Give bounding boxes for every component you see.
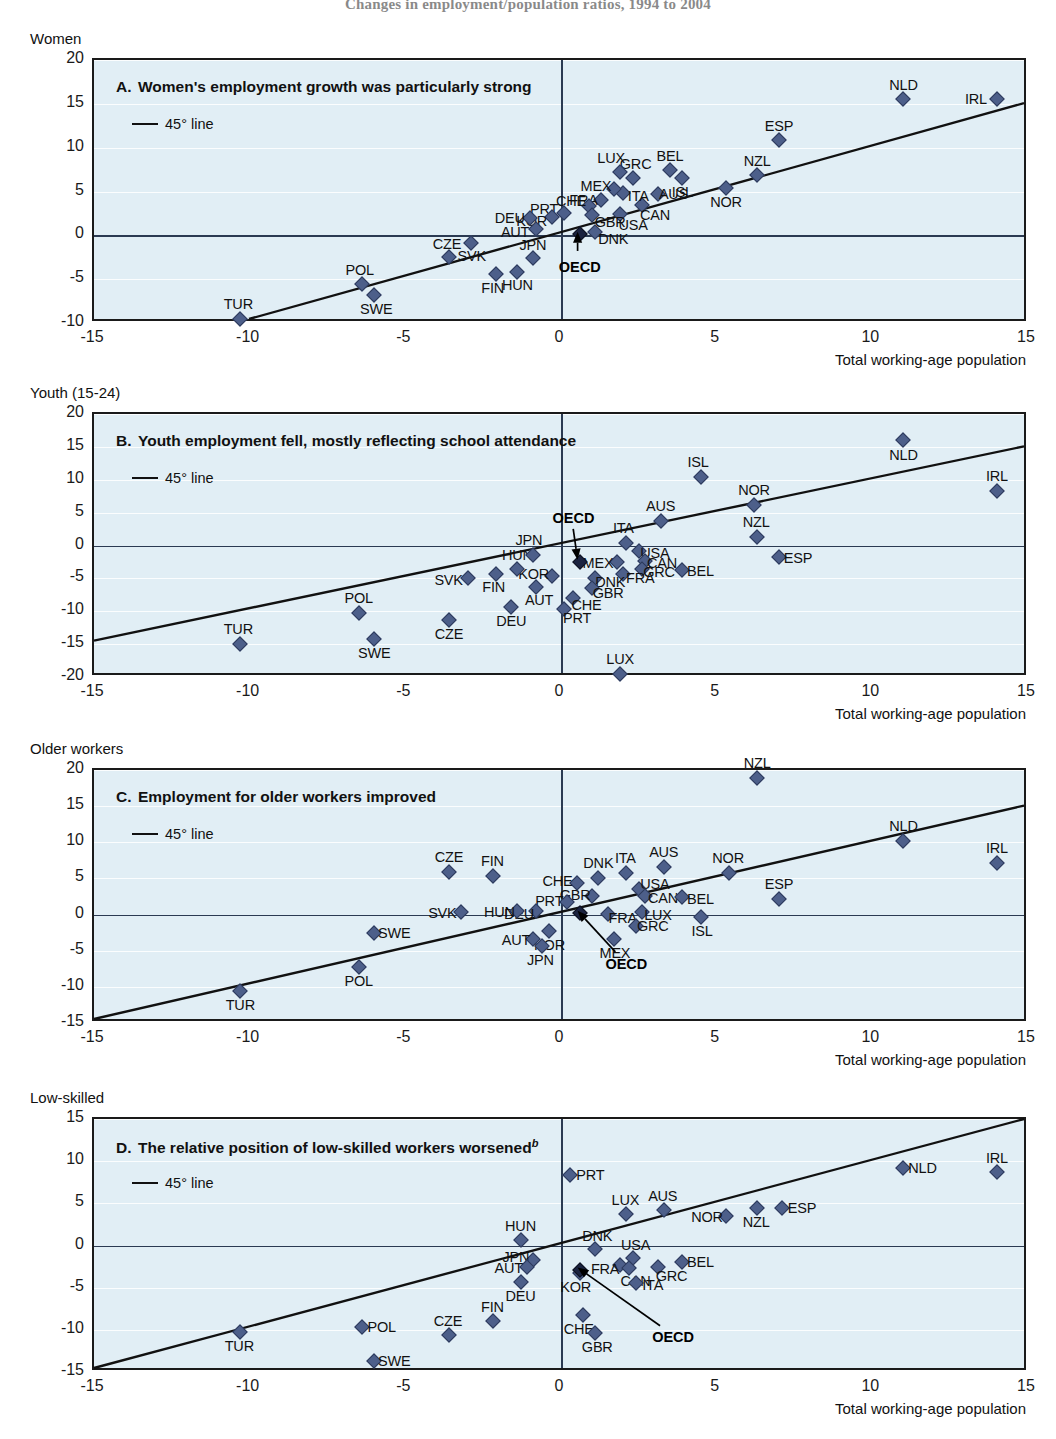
point-label-swe: SWE <box>378 925 410 941</box>
point-label-nzl: NZL <box>743 1214 770 1230</box>
legend: 45° line <box>132 1175 214 1191</box>
legend-line-swatch <box>132 123 158 126</box>
y-axis-tick-label: -10 <box>38 1319 84 1337</box>
point-label-svk: SVK <box>457 248 485 264</box>
panel-letter: B. <box>116 432 138 450</box>
x-axis-tick-label: -15 <box>80 328 103 346</box>
y-axis-tick-label: 15 <box>38 795 84 813</box>
x-axis-tick-label: -15 <box>80 682 103 700</box>
point-label-hun: HUN <box>502 277 533 293</box>
x-axis-tick-label: -10 <box>236 1377 259 1395</box>
y-axis-tick-label: 15 <box>38 436 84 454</box>
legend-label: 45° line <box>165 1175 214 1191</box>
point-label-cze: CZE <box>435 626 463 642</box>
x-axis-tick-label: 15 <box>1017 682 1035 700</box>
plot-area: A.Women's employment growth was particul… <box>92 58 1026 321</box>
point-label-dnk: DNK <box>582 1228 612 1244</box>
point-label-fra: FRA <box>626 570 654 586</box>
point-label-cze: CZE <box>434 1313 462 1329</box>
y-axis-tick-label: 10 <box>38 137 84 155</box>
point-label-nld: NLD <box>908 1160 936 1176</box>
point-label-nld: NLD <box>889 77 917 93</box>
y-axis-tick-label: 0 <box>38 1235 84 1253</box>
point-label-ita: ITA <box>615 850 636 866</box>
panel-title-4: D.The relative position of low-skilled w… <box>116 1137 538 1157</box>
x-axis-tick-label: -5 <box>396 682 410 700</box>
oecd-label-4: OECD <box>652 1329 694 1345</box>
point-label-bel: BEL <box>687 563 714 579</box>
y-axis-tick-label: 5 <box>38 502 84 520</box>
point-label-ita: ITA <box>642 1277 663 1293</box>
point-label-cze: CZE <box>435 849 463 865</box>
x-axis-tick-label: -5 <box>396 328 410 346</box>
point-label-hun: HUN <box>505 1218 536 1234</box>
panel-group-label-4: Low-skilled <box>30 1089 104 1106</box>
y-axis-tick-label: 15 <box>38 1108 84 1126</box>
x-axis-tick-label: 10 <box>861 682 879 700</box>
legend: 45° line <box>132 826 214 842</box>
y-axis-tick-label: -5 <box>38 1277 84 1295</box>
point-label-can: CAN <box>648 890 678 906</box>
y-axis-tick-label: -20 <box>38 666 84 684</box>
point-label-grc: GRC <box>637 918 669 934</box>
point-label-irl: IRL <box>965 91 987 107</box>
y-axis-tick-label: 20 <box>38 759 84 777</box>
y-axis-tick-label: 0 <box>38 904 84 922</box>
legend-line-swatch <box>132 1182 158 1185</box>
legend-label: 45° line <box>165 826 214 842</box>
x-axis-tick-label: -10 <box>236 328 259 346</box>
point-label-che: CHE <box>556 193 586 209</box>
point-label-kor: KOR <box>560 1279 591 1295</box>
x-axis-tick-label: -10 <box>236 1028 259 1046</box>
x-axis-tick-label: 10 <box>861 328 879 346</box>
y-axis-tick-label: 0 <box>38 224 84 242</box>
point-label-tur: TUR <box>224 296 253 312</box>
point-label-fin: FIN <box>481 853 504 869</box>
gridline-horizontal <box>94 1372 1024 1373</box>
x-axis-tick-label: 10 <box>861 1028 879 1046</box>
panel-group-label-3: Older workers <box>30 740 123 757</box>
point-label-tur: TUR <box>225 1338 254 1354</box>
point-label-isl: ISL <box>688 454 709 470</box>
point-label-lux: LUX <box>612 1192 640 1208</box>
y-axis-tick-label: -10 <box>38 976 84 994</box>
panel-title-2: B.Youth employment fell, mostly reflecti… <box>116 432 576 450</box>
point-label-pol: POL <box>344 973 372 989</box>
point-label-svk: SVK <box>434 572 462 588</box>
point-label-svk: SVK <box>428 905 456 921</box>
x-axis-tick-label: 0 <box>555 682 564 700</box>
point-label-irl: IRL <box>986 840 1008 856</box>
point-label-ita: ITA <box>628 188 649 204</box>
point-label-hun: HUN <box>484 904 515 920</box>
gridline-horizontal <box>94 323 1024 324</box>
gridline-horizontal <box>94 1023 1024 1024</box>
x-axis-tick-label: 5 <box>710 328 719 346</box>
point-label-gbr: GBR <box>582 1339 613 1355</box>
point-label-aut: AUT <box>525 592 553 608</box>
figure-title: Changes in employment/population ratios,… <box>0 0 1056 13</box>
plot-area: C.Employment for older workers improved4… <box>92 768 1026 1021</box>
panel-letter: C. <box>116 788 138 806</box>
point-label-nor: NOR <box>712 850 744 866</box>
panel-title-footnote-marker: b <box>532 1137 539 1149</box>
point-label-dnk: DNK <box>598 231 628 247</box>
panel-letter: D. <box>116 1139 138 1157</box>
point-label-swe: SWE <box>358 645 390 661</box>
point-label-prt: PRT <box>563 610 591 626</box>
y-axis-tick-label: 20 <box>38 49 84 67</box>
point-label-fin: FIN <box>482 579 505 595</box>
y-axis-tick-label: -5 <box>38 940 84 958</box>
legend-label: 45° line <box>165 470 214 486</box>
point-label-ita: ITA <box>613 520 634 536</box>
point-label-esp: ESP <box>765 118 793 134</box>
y-axis-tick-label: -15 <box>38 1361 84 1379</box>
point-label-nzl: NZL <box>744 755 771 771</box>
point-label-nor: NOR <box>710 194 742 210</box>
point-label-nor: NOR <box>691 1209 723 1225</box>
scatter-plot-3: C.Employment for older workers improved4… <box>92 768 1026 1021</box>
x-axis-tick-label: 0 <box>555 1028 564 1046</box>
x-axis-tick-label: -5 <box>396 1028 410 1046</box>
point-label-jpn: JPN <box>527 952 554 968</box>
x-axis-tick-label: 5 <box>710 1028 719 1046</box>
y-axis-tick-label: -5 <box>38 567 84 585</box>
